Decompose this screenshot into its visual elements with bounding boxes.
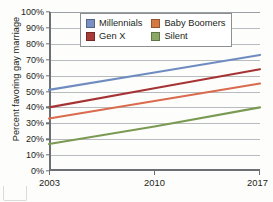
y-tick-label: 50%	[26, 87, 44, 97]
y-tick-mark	[46, 107, 50, 108]
y-tick-mark	[46, 43, 50, 44]
legend-swatch-gen-x	[86, 32, 95, 41]
y-tick-mark	[46, 59, 50, 60]
y-axis-title: Percent favoring gay marriage	[11, 4, 25, 154]
legend-swatch-baby-boomers	[151, 19, 160, 28]
series-line-millennials	[49, 55, 260, 90]
y-tick-label: 40%	[26, 102, 44, 112]
legend-label-gen-x: Gen X	[99, 31, 125, 42]
legend-item-gen-x[interactable]: Gen X	[86, 31, 142, 42]
y-tick-label: 10%	[26, 150, 44, 160]
y-tick-mark	[46, 91, 50, 92]
x-tick-label: 2017	[247, 177, 268, 188]
legend-label-silent: Silent	[164, 31, 187, 42]
y-tick-label: 90%	[26, 23, 44, 33]
y-tick-mark	[46, 27, 50, 28]
x-tick-mark	[154, 170, 155, 175]
y-tick-label: 60%	[26, 71, 44, 81]
x-tick-label: 2010	[144, 177, 165, 188]
legend-item-baby-boomers[interactable]: Baby Boomers	[151, 18, 225, 29]
legend-item-silent[interactable]: Silent	[151, 31, 225, 42]
y-tick-label: 80%	[26, 39, 44, 49]
chart-figure: Percent favoring gay marriage 0%10%20%30…	[0, 0, 273, 202]
y-tick-mark	[46, 75, 50, 76]
y-tick-label: 100%	[21, 7, 44, 17]
legend-label-millennials: Millennials	[99, 18, 142, 29]
chart-legend: Millennials Baby Boomers Gen X Silent	[80, 13, 232, 47]
x-tick-label: 2003	[39, 177, 60, 188]
y-tick-label: 30%	[26, 118, 44, 128]
y-tick-mark	[46, 123, 50, 124]
y-tick-label: 20%	[26, 134, 44, 144]
legend-swatch-millennials	[86, 19, 95, 28]
legend-grid: Millennials Baby Boomers Gen X Silent	[86, 18, 225, 42]
y-tick-label: 70%	[26, 55, 44, 65]
y-tick-mark	[46, 11, 50, 12]
legend-item-millennials[interactable]: Millennials	[86, 18, 142, 29]
legend-label-baby-boomers: Baby Boomers	[164, 18, 225, 29]
y-tick-mark	[46, 138, 50, 139]
x-tick-mark	[259, 170, 260, 175]
scan-artifact	[3, 186, 27, 201]
y-tick-label: 0%	[31, 166, 44, 176]
x-tick-mark	[49, 170, 50, 175]
y-tick-mark	[46, 154, 50, 155]
legend-swatch-silent	[151, 32, 160, 41]
